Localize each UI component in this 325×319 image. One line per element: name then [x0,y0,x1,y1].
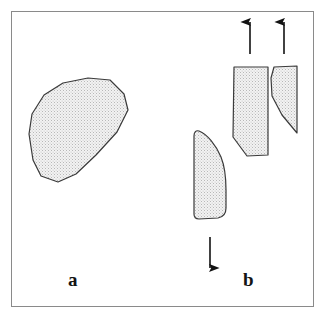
panel-a-shapes [29,78,128,182]
panel-b-shapes [194,66,297,219]
fragment-lower-left [194,131,226,219]
panel-label-a: a [68,270,78,289]
figure-canvas [0,0,325,319]
clast-intact [29,78,128,182]
panel-label-b: b [243,270,254,289]
fragment-upper-right [271,66,297,133]
figure-root: a b [0,0,325,319]
fragment-upper-left [233,67,268,156]
